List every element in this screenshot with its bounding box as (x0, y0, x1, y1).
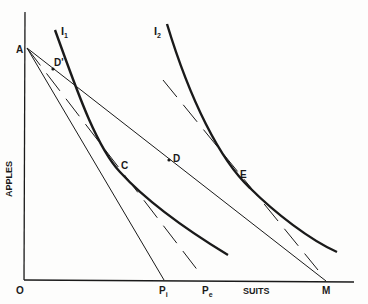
indifference-curve-i1 (55, 30, 228, 255)
label-i2: I2 (154, 25, 161, 39)
budget-line-a-m (27, 48, 326, 281)
label-d-prime: D' (54, 57, 64, 68)
label-a: A (16, 44, 23, 55)
label-m: M (322, 285, 330, 296)
budget-line-a-pi (27, 48, 164, 280)
label-e: E (240, 169, 247, 180)
label-pi: Pi (159, 285, 168, 298)
label-pe: Pe (202, 285, 213, 298)
x-axis (24, 280, 354, 282)
y-axis-label: APPLES (4, 161, 14, 197)
y-axis (24, 12, 25, 280)
label-c: C (121, 160, 128, 171)
diagram-svg: A D' C D E I1 I2 O Pi Pe SUITS M APPLES (0, 0, 368, 304)
x-axis-label: SUITS (243, 286, 270, 296)
label-d: D (173, 153, 180, 164)
label-origin: O (16, 285, 24, 296)
label-i1: I1 (61, 25, 68, 39)
diagram-canvas: A D' C D E I1 I2 O Pi Pe SUITS M APPLES (0, 0, 368, 304)
point-d (167, 158, 170, 161)
indifference-curve-i2 (167, 24, 337, 252)
